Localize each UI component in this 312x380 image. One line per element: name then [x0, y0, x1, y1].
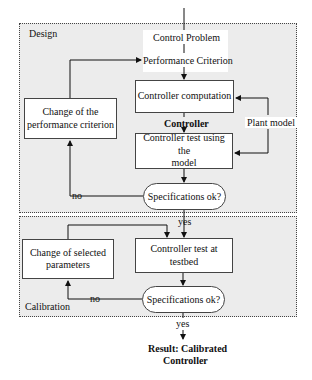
- flow-arrows: [0, 0, 312, 380]
